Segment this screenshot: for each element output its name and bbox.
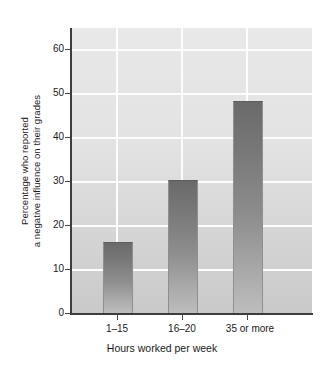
bar-16-20[interactable] [168,180,198,313]
y-tick-label-30: 30 [42,176,64,186]
bar-chart-figure: Percentage who reported a negative influ… [0,0,324,365]
gridline-y-60 [71,49,312,51]
plot-area [71,28,312,313]
y-tick-label-50: 50 [42,88,64,98]
x-axis-line [70,313,313,315]
x-tick-label-1-15: 1–15 [106,323,128,334]
x-axis-title: Hours worked per week [0,342,324,354]
x-tick-label-16-20: 16–20 [168,323,196,334]
y-axis-tick-labels: 0 10 20 30 40 50 60 [40,0,64,365]
y-tick-label-10: 10 [42,264,64,274]
y-tick-label-40: 40 [42,132,64,142]
y-tick-label-0: 0 [42,308,64,318]
y-axis-title-line-1: Percentage who reported [19,117,30,225]
bar-35-or-more[interactable] [233,101,263,313]
x-tick-mark-3 [247,314,248,320]
y-tick-label-60: 60 [42,44,64,54]
bar-1-15[interactable] [103,242,133,313]
x-tick-label-35-or-more: 35 or more [226,323,274,334]
y-tick-label-20: 20 [42,220,64,230]
gridline-y-50 [71,93,312,95]
gridline-y-40 [71,137,312,139]
x-tick-mark-1 [117,314,118,320]
y-axis-line [70,28,72,314]
x-tick-mark-2 [182,314,183,320]
